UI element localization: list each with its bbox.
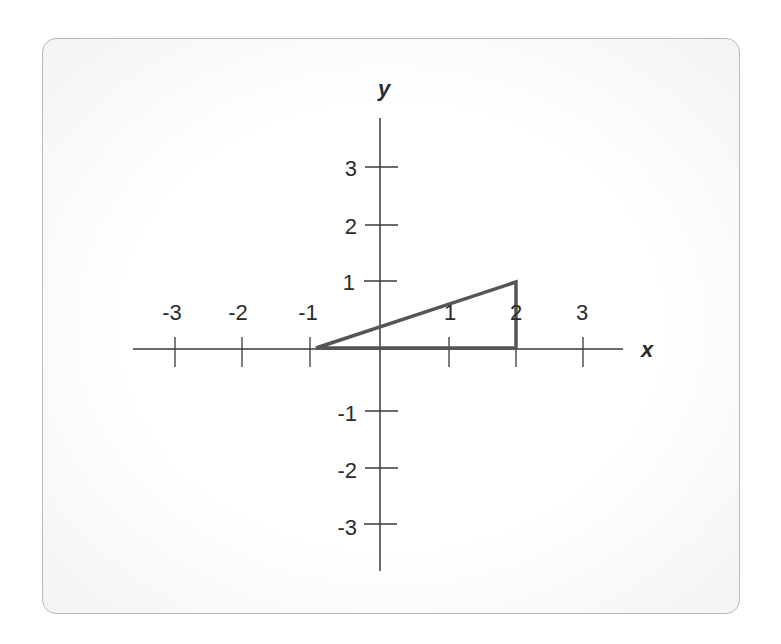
x-tick-label: 1 xyxy=(444,300,456,325)
y-tick-label: 1 xyxy=(343,270,355,295)
y-ticks xyxy=(364,167,398,524)
x-ticks xyxy=(175,337,583,367)
x-tick-label: -1 xyxy=(298,300,318,325)
x-tick-label: 2 xyxy=(510,300,522,325)
y-tick-label: -3 xyxy=(337,515,357,540)
x-axis-label: x xyxy=(640,337,654,362)
y-tick-label: 3 xyxy=(345,156,357,181)
y-axis-label: y xyxy=(377,76,392,101)
x-tick-label: -3 xyxy=(162,300,182,325)
x-tick-label: -2 xyxy=(228,300,248,325)
x-tick-label: 3 xyxy=(576,300,588,325)
y-tick-label: -2 xyxy=(337,458,357,483)
y-tick-label: 2 xyxy=(345,214,357,239)
y-tick-label: -1 xyxy=(337,401,357,426)
coordinate-plane: -3 -2 -1 1 2 3 3 2 1 -1 -2 -3 x y xyxy=(0,0,781,644)
